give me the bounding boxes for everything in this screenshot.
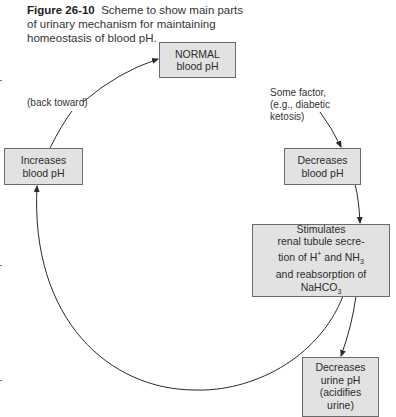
stimulates-line-3a: tion of H	[278, 250, 317, 262]
arrow-stimulates-to-urine	[341, 296, 356, 356]
arrow-decrease-to-stimulates	[355, 184, 360, 223]
stimulates-line-3b: and NH	[321, 250, 360, 262]
node-decreases-urine-text: Decreases urine pH (acidifies urine)	[315, 361, 365, 411]
node-decreases-blood-text: Decreases blood pH	[297, 154, 347, 179]
stimulates-line-1: Stimulates	[296, 223, 345, 236]
node-normal-text: NORMAL blood pH	[175, 48, 220, 73]
margin-tick	[0, 380, 2, 381]
stimulates-line-3: tion of H+ and NH3	[278, 248, 364, 268]
stimulates-line-5: NaHCO3	[301, 281, 342, 299]
stimulates-line-4: and reabsorption of	[276, 268, 366, 281]
stimulates-line-2: renal tubule secre-	[278, 235, 365, 248]
arrow-back-toward-to-normal	[83, 59, 158, 102]
node-decreases-urine-ph: Decreases urine pH (acidifies urine)	[302, 357, 379, 417]
nh3-subscript: 3	[360, 258, 364, 265]
label-some-factor: Some factor, (e.g., diabetic ketosis)	[270, 87, 330, 123]
node-increases-blood-ph: Increases blood pH	[4, 148, 83, 185]
margin-tick	[0, 265, 2, 266]
margin-tick	[0, 80, 2, 81]
node-increases-text: Increases blood pH	[21, 154, 67, 179]
stimulates-line-5a: NaHCO	[301, 281, 338, 293]
node-stimulates-renal: Stimulates renal tubule secre- tion of H…	[252, 224, 390, 297]
nahco3-subscript: 3	[337, 288, 341, 295]
node-normal-blood-ph: NORMAL blood pH	[159, 42, 236, 78]
label-back-toward: (back toward)	[27, 97, 88, 109]
node-decreases-blood-ph: Decreases blood pH	[284, 148, 361, 185]
arrow-increases-to-back-toward	[50, 111, 72, 148]
